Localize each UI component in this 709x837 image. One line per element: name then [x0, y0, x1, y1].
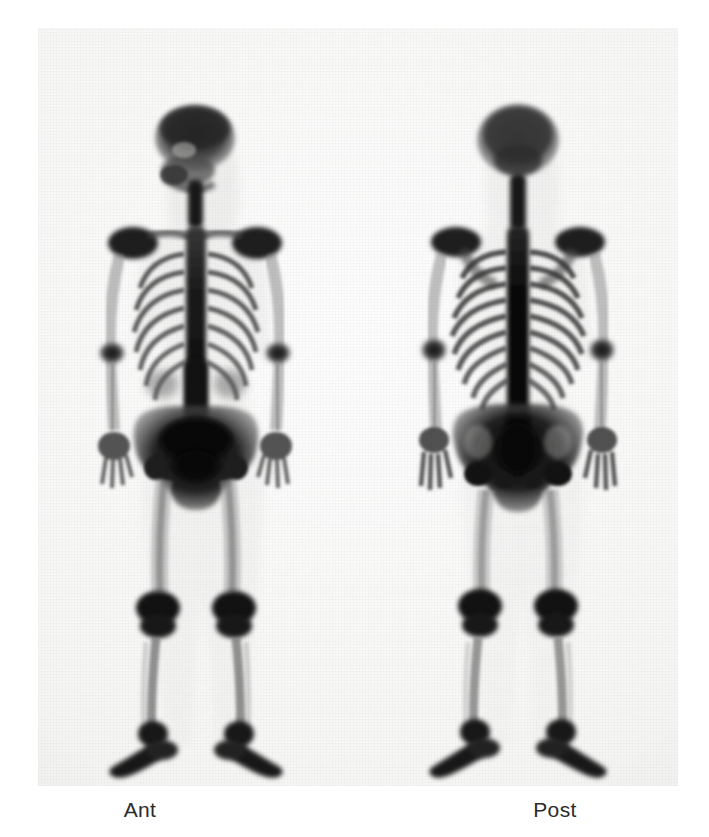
view-label-anterior: Ant	[60, 798, 220, 822]
anterior-feet	[109, 721, 282, 778]
posterior-skeleton-image	[358, 28, 678, 786]
scan-view-anterior	[38, 28, 358, 786]
scan-view-posterior	[358, 28, 678, 786]
scan-film	[38, 28, 678, 786]
posterior-cervical-spine	[510, 174, 526, 230]
posterior-skull	[477, 104, 559, 176]
view-label-posterior: Post	[475, 798, 635, 822]
anterior-skeleton-image	[38, 28, 358, 786]
anterior-spine	[184, 226, 208, 422]
posterior-feet	[429, 719, 606, 778]
bone-scan-figure: Ant Post	[0, 0, 709, 837]
anterior-cervical-spine	[188, 180, 203, 228]
